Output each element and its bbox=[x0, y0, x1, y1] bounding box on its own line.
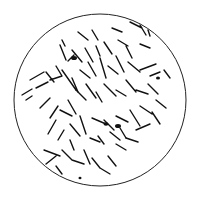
microscope-field-svg bbox=[0, 0, 198, 199]
bacteria-clumps bbox=[71, 56, 160, 179]
bacteria-rods bbox=[22, 22, 170, 174]
microscope-field-illustration bbox=[0, 0, 198, 199]
